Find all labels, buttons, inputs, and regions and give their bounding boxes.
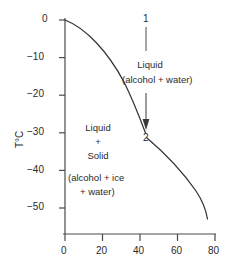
y-tick-label-m50: −50 bbox=[27, 201, 44, 214]
x-tick-label-40: 40 bbox=[133, 245, 144, 258]
eutectic-branch-curve bbox=[147, 138, 208, 219]
x-tick-label-60: 60 bbox=[171, 245, 182, 258]
y-tick-label-m10: −10 bbox=[27, 51, 44, 64]
point-2-label: 2 bbox=[143, 132, 149, 145]
y-tick-label-0: 0 bbox=[42, 13, 48, 26]
liquid-region-title: Liquid bbox=[128, 59, 172, 71]
x-tick-label-20: 20 bbox=[96, 245, 107, 258]
y-axis-ticks bbox=[59, 20, 65, 208]
x-axis-ticks bbox=[65, 234, 215, 241]
mixture-region-line5: + water) bbox=[80, 186, 160, 198]
x-tick-label-80: 80 bbox=[208, 245, 219, 258]
mixture-region-line3: Solid bbox=[72, 150, 124, 162]
mixture-region-line4: (alcohol + ice bbox=[68, 172, 148, 184]
y-axis-title: T°C bbox=[14, 131, 27, 148]
y-tick-label-m30: −30 bbox=[27, 126, 44, 139]
point-1-label: 1 bbox=[143, 13, 149, 26]
x-tick-label-0: 0 bbox=[61, 245, 67, 258]
mixture-region-line1: Liquid bbox=[72, 122, 124, 134]
y-tick-label-m40: −40 bbox=[27, 164, 44, 177]
mixture-region-line2: + bbox=[72, 136, 124, 148]
liquid-region-subtitle: (alcohol + water) bbox=[122, 74, 232, 86]
y-tick-label-m20: −20 bbox=[27, 88, 44, 101]
